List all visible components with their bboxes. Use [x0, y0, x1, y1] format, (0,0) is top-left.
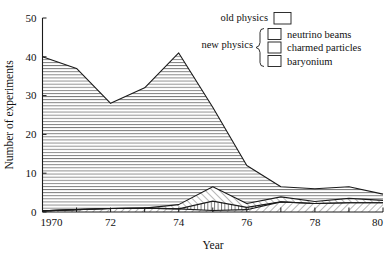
experiments-area-chart: 01020304050 19707274767880 Number of exp… [0, 0, 390, 254]
legend-swatch-neutrino-beams [268, 29, 281, 40]
y-tick-label: 50 [26, 12, 38, 24]
legend-label-neutrino-beams: neutrino beams [287, 29, 351, 40]
legend-label-charmed-particles: charmed particles [287, 42, 361, 53]
x-tick-label: 72 [105, 216, 116, 228]
x-tick-label: 1970 [41, 216, 64, 228]
x-axis-tick-labels: 19707274767880 [41, 216, 384, 228]
chart-container: 01020304050 19707274767880 Number of exp… [0, 0, 390, 254]
legend-group-new-physics-label: new physics [201, 39, 253, 50]
y-axis-tick-labels: 01020304050 [26, 12, 38, 218]
y-tick-label: 10 [26, 167, 38, 179]
y-tick-label: 0 [31, 206, 37, 218]
legend: old physics new physics neutrino beams c… [201, 12, 361, 67]
legend-brace [256, 29, 264, 67]
y-axis-title: Number of experiments [3, 60, 16, 170]
x-tick-label: 76 [241, 216, 253, 228]
y-tick-label: 40 [26, 51, 38, 63]
y-tick-label: 30 [26, 89, 38, 101]
legend-label-baryonium: baryonium [287, 56, 333, 67]
x-axis-title: Year [202, 239, 223, 251]
legend-swatch-charmed-particles [268, 42, 281, 53]
legend-swatch-baryonium [268, 56, 281, 67]
x-tick-label: 74 [173, 216, 185, 228]
x-tick-label: 80 [372, 216, 384, 228]
legend-swatch-old-physics [274, 13, 291, 25]
x-tick-label: 78 [309, 216, 321, 228]
y-tick-label: 20 [26, 128, 38, 140]
legend-group-old-physics-label: old physics [220, 12, 268, 23]
